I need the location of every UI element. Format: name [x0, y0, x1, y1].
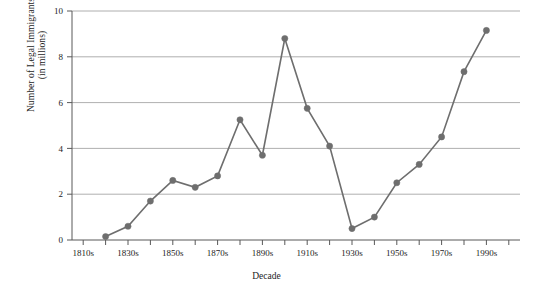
x-tick-label: 1810s — [72, 248, 94, 258]
data-point — [282, 35, 288, 41]
data-point — [394, 180, 400, 186]
x-tick-label: 1910s — [296, 248, 318, 258]
x-tick-label: 1970s — [431, 248, 453, 258]
data-point — [371, 214, 377, 220]
x-tick-label: 1870s — [207, 248, 229, 258]
y-axis-ticks: 0246810 — [54, 6, 72, 245]
plot-area: 0246810 1810s1830s1850s1870s1890s1910s19… — [0, 0, 533, 295]
x-axis-title: Decade — [0, 271, 533, 281]
data-point — [461, 69, 467, 75]
y-tick-label: 2 — [59, 189, 64, 199]
data-point — [170, 177, 176, 183]
data-point — [304, 105, 310, 111]
data-point — [215, 173, 221, 179]
data-point — [416, 161, 422, 167]
x-tick-label: 1930s — [341, 248, 363, 258]
x-tick-label: 1950s — [386, 248, 408, 258]
y-tick-label: 6 — [59, 98, 64, 108]
data-point — [259, 152, 265, 158]
y-tick-label: 8 — [59, 52, 64, 62]
x-tick-label: 1890s — [252, 248, 274, 258]
data-point — [349, 225, 355, 231]
line-chart: Number of Legal Immigrants (in millions)… — [0, 0, 533, 295]
data-point-markers — [103, 27, 490, 239]
data-series-line — [106, 30, 487, 236]
x-tick-label: 1990s — [476, 248, 498, 258]
data-point — [327, 143, 333, 149]
x-axis-ticks: 1810s1830s1850s1870s1890s1910s1930s1950s… — [72, 240, 508, 258]
data-point — [439, 134, 445, 140]
y-tick-label: 4 — [59, 144, 64, 154]
data-point — [192, 184, 198, 190]
data-point — [125, 223, 131, 229]
y-tick-label: 10 — [54, 6, 64, 16]
data-point — [237, 117, 243, 123]
x-tick-label: 1830s — [117, 248, 139, 258]
data-point — [103, 233, 109, 239]
x-tick-label: 1850s — [162, 248, 184, 258]
data-point — [147, 198, 153, 204]
data-point — [483, 27, 489, 33]
y-tick-label: 0 — [59, 235, 64, 245]
